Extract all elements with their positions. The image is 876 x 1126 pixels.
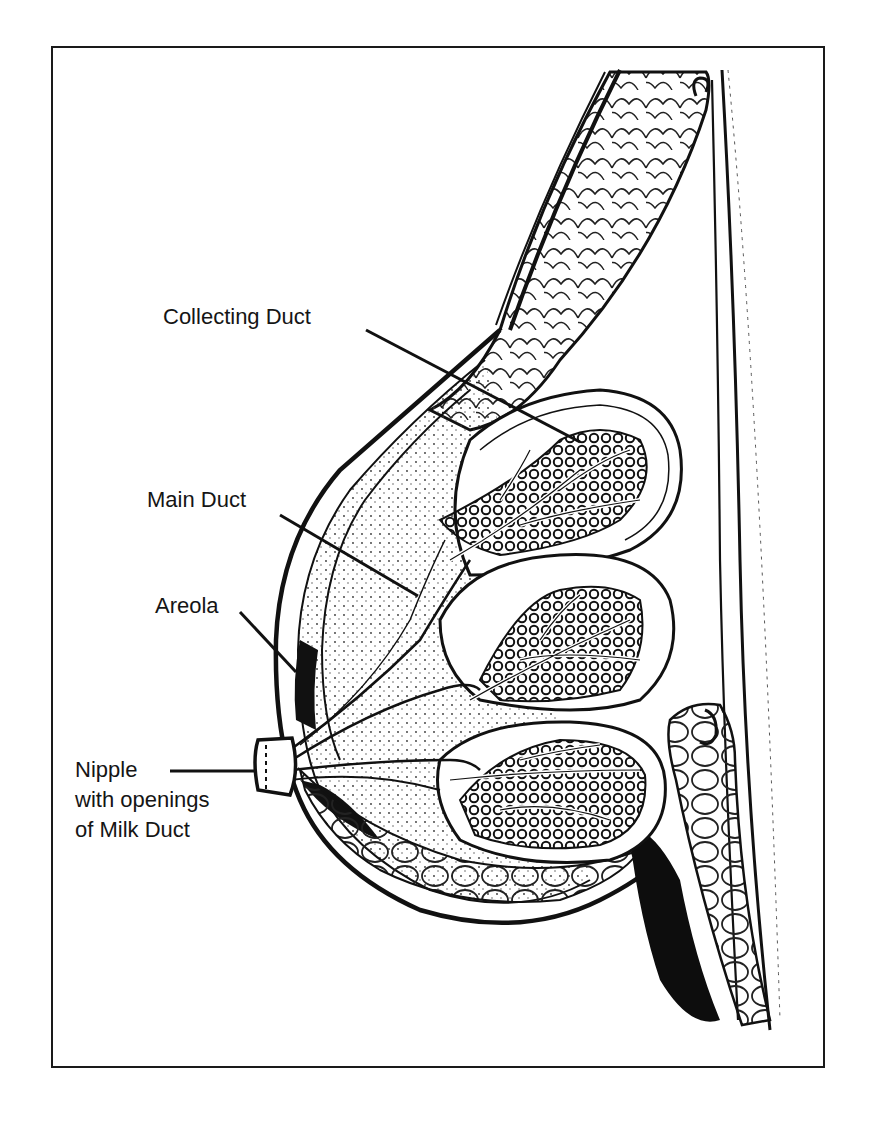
label-main-duct: Main Duct [147,486,246,514]
breast-anatomy-illustration [0,0,876,1126]
label-nipple: Nipple with openings of Milk Duct [75,755,210,845]
lobe-lower [438,722,666,863]
label-nipple-line-1: Nipple [75,755,210,785]
nipple [255,738,296,795]
areola-leader [240,612,296,672]
label-areola: Areola [155,592,219,620]
label-nipple-line-3: of Milk Duct [75,815,210,845]
label-collecting-duct: Collecting Duct [163,303,311,331]
label-nipple-line-2: with openings [75,785,210,815]
